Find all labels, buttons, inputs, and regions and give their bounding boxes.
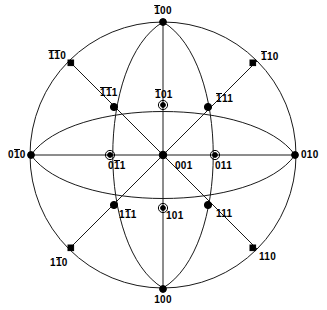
marker-bar1bar10 [68, 60, 74, 66]
marker-111 [204, 201, 211, 208]
marker-1bar11 [110, 201, 117, 208]
marker-010 [292, 152, 299, 159]
pole-label-bar100-top: 100 [154, 6, 172, 16]
pole-label-bar1bar11: 111 [100, 88, 118, 98]
pole-label-100-bottom: 100 [154, 295, 172, 305]
marker-1bar10 [68, 245, 74, 251]
pole-label-010: 010 [301, 150, 319, 160]
pole-label-bar111: 111 [216, 94, 233, 104]
marker-bar111 [204, 103, 211, 110]
marker-001-center [159, 151, 167, 159]
pole-label-bar1bar10: 110 [48, 51, 66, 61]
marker-110 [250, 245, 256, 251]
pole-label-bar101: 101 [155, 90, 173, 100]
marker-bar1bar11 [110, 103, 117, 110]
pole-label-1bar11: 111 [119, 210, 137, 220]
marker-100-bottom [160, 286, 167, 293]
marker-0bar10 [28, 152, 35, 159]
pole-label-101: 101 [166, 211, 184, 221]
pole-label-001-center: 001 [175, 161, 193, 171]
pole-label-111: 111 [216, 209, 232, 219]
pole-label-011: 011 [215, 161, 232, 171]
pole-label-bar110: 110 [261, 52, 279, 62]
pole-label-110: 110 [259, 252, 276, 262]
pole-label-1bar10: 110 [50, 258, 68, 268]
stereographic-projection-figure: 100 110 110 111 101 111 010 011 001 011 … [0, 0, 327, 310]
pole-label-0bar10: 010 [8, 150, 26, 160]
marker-bar100-top [160, 19, 167, 26]
pole-label-0bar11: 011 [108, 161, 126, 171]
marker-bar110 [250, 60, 256, 66]
